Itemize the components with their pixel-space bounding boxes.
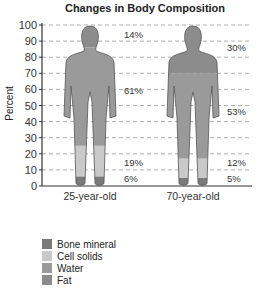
- value-label: 12%: [227, 157, 247, 168]
- segment-water: [60, 48, 120, 146]
- legend-item: Bone mineral: [42, 238, 116, 250]
- value-label: 61%: [124, 85, 144, 96]
- segment-bone-mineral: [60, 176, 120, 186]
- value-label: 30%: [227, 42, 247, 53]
- legend-label: Cell solids: [57, 251, 103, 262]
- y-tick-label: 0: [31, 180, 37, 192]
- value-label: 14%: [124, 29, 144, 40]
- y-tick-label: 50: [25, 100, 37, 112]
- chart-area: 010203040506070809010014%61%19%6%25-year…: [0, 0, 260, 230]
- legend-label: Water: [57, 263, 83, 274]
- segment-bone-mineral: [163, 178, 223, 186]
- y-tick-label: 90: [25, 35, 37, 47]
- legend-item: Fat: [42, 274, 116, 286]
- legend-item: Cell solids: [42, 250, 116, 262]
- legend: Bone mineralCell solidsWaterFat: [42, 238, 116, 286]
- y-tick-label: 60: [25, 83, 37, 95]
- segment-cell-solids: [163, 159, 223, 178]
- segment-fat: [60, 25, 120, 48]
- segment-cell-solids: [60, 146, 120, 177]
- legend-swatch: [42, 251, 52, 261]
- figure-25-year-old: [60, 25, 120, 186]
- x-category-label: 70-year-old: [166, 190, 219, 202]
- legend-label: Fat: [57, 275, 71, 286]
- legend-item: Water: [42, 262, 116, 274]
- y-tick-label: 80: [25, 51, 37, 63]
- legend-swatch: [42, 275, 52, 285]
- value-label: 6%: [124, 173, 138, 184]
- y-tick-label: 70: [25, 67, 37, 79]
- value-label: 53%: [227, 106, 247, 117]
- value-label: 19%: [124, 157, 144, 168]
- y-tick-label: 20: [25, 148, 37, 160]
- value-label: 5%: [227, 173, 241, 184]
- y-tick-label: 30: [25, 132, 37, 144]
- legend-swatch: [42, 239, 52, 249]
- segment-fat: [163, 25, 223, 73]
- y-tick-label: 40: [25, 116, 37, 128]
- legend-swatch: [42, 263, 52, 273]
- legend-label: Bone mineral: [57, 239, 116, 250]
- x-category-label: 25-year-old: [63, 190, 116, 202]
- y-tick-label: 10: [25, 164, 37, 176]
- y-tick-label: 100: [19, 19, 37, 31]
- segment-water: [163, 73, 223, 158]
